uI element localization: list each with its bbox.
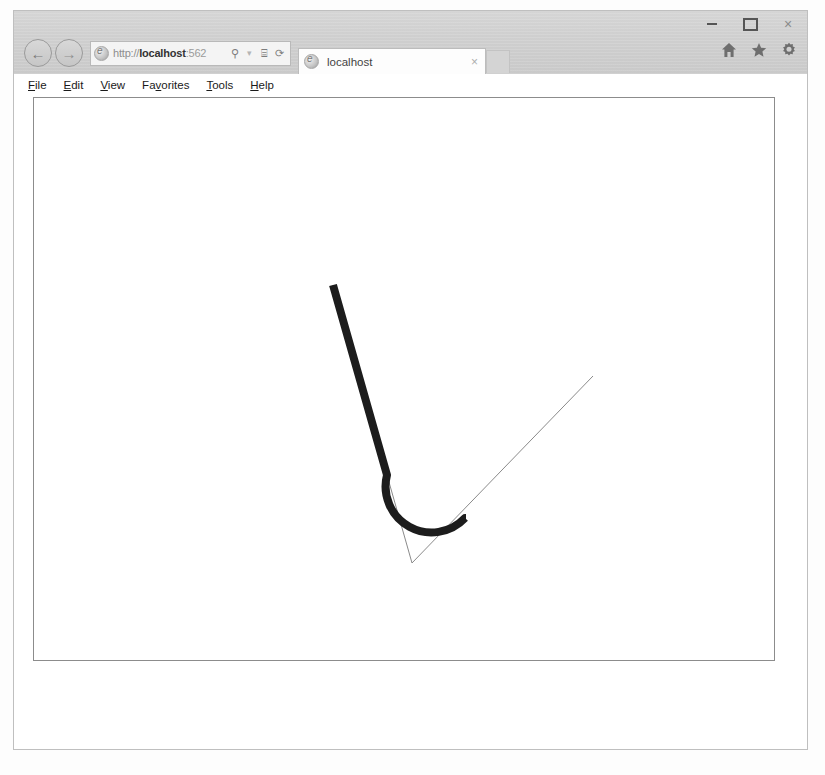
- forward-button[interactable]: →: [55, 39, 83, 67]
- forward-arrow-icon: →: [62, 45, 77, 62]
- menu-bar: File Edit View Favorites Tools Help: [14, 74, 807, 96]
- maximize-icon: [743, 18, 758, 31]
- menu-tools-post: ools: [212, 79, 233, 91]
- menu-item-edit[interactable]: Edit: [64, 79, 84, 91]
- refresh-icon[interactable]: ⟳: [272, 47, 287, 60]
- window-controls: ×: [701, 15, 799, 33]
- new-tab-button[interactable]: [486, 50, 510, 73]
- scanned-page: × ← → http://localhost:562 ⚲ ▾ ⌸ ⟳: [0, 0, 825, 775]
- menu-favorites-post: orites: [161, 79, 189, 91]
- page-content: [14, 95, 807, 749]
- tab-strip: localhost ×: [298, 33, 510, 73]
- compatibility-view-icon[interactable]: ⌸: [257, 47, 272, 60]
- menu-item-help[interactable]: Help: [250, 79, 274, 91]
- address-bar[interactable]: http://localhost:562 ⚲ ▾ ⌸ ⟳: [90, 41, 291, 66]
- url-text: http://localhost:562: [113, 47, 227, 59]
- tab-close-icon[interactable]: ×: [471, 55, 478, 69]
- menu-help-accel: H: [250, 79, 258, 91]
- menu-help-post: elp: [259, 79, 274, 91]
- menu-item-favorites[interactable]: Favorites: [142, 79, 189, 91]
- url-host: localhost: [139, 47, 186, 59]
- chevron-down-icon[interactable]: ▾: [242, 48, 257, 58]
- maximize-button[interactable]: [739, 15, 761, 33]
- menu-item-tools[interactable]: Tools: [206, 79, 233, 91]
- menu-file-post: ile: [35, 79, 47, 91]
- menu-file-accel: F: [28, 79, 35, 91]
- menu-view-accel: V: [100, 79, 107, 91]
- back-button[interactable]: ←: [24, 39, 52, 67]
- tab-favicon-icon: [304, 54, 319, 69]
- url-port: :562: [186, 47, 207, 59]
- minimize-button[interactable]: [701, 15, 723, 33]
- tools-gear-icon[interactable]: [781, 42, 797, 58]
- browser-logo-icon: [94, 46, 109, 61]
- tab-localhost[interactable]: localhost ×: [298, 48, 486, 74]
- command-bar: [721, 42, 797, 58]
- rounded-corner-drawing: [34, 98, 774, 660]
- close-button[interactable]: ×: [777, 15, 799, 33]
- url-scheme: http://: [113, 47, 139, 59]
- home-icon[interactable]: [721, 42, 737, 58]
- rounded-corner-path: [333, 285, 466, 532]
- search-icon[interactable]: ⚲: [227, 47, 242, 60]
- favorites-star-icon[interactable]: [751, 42, 767, 58]
- browser-window: × ← → http://localhost:562 ⚲ ▾ ⌸ ⟳: [14, 11, 807, 749]
- navigation-row: ← → http://localhost:562 ⚲ ▾ ⌸ ⟳ loca: [14, 33, 807, 73]
- drawing-canvas[interactable]: [33, 97, 775, 661]
- menu-edit-post: dit: [71, 79, 83, 91]
- menu-view-post: iew: [108, 79, 125, 91]
- back-arrow-icon: ←: [31, 45, 46, 62]
- menu-item-file[interactable]: File: [28, 79, 47, 91]
- tab-title: localhost: [327, 56, 471, 68]
- minimize-icon: [707, 23, 717, 25]
- title-bar: × ← → http://localhost:562 ⚲ ▾ ⌸ ⟳: [14, 11, 807, 75]
- close-icon: ×: [784, 17, 792, 31]
- menu-item-view[interactable]: View: [100, 79, 125, 91]
- menu-favorites-pre: Fa: [142, 79, 155, 91]
